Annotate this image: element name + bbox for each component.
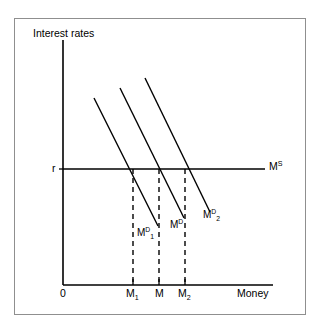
origin-label: 0 [60,288,66,299]
x-tick-m1-subscript: 1 [135,294,139,302]
money-supply-curve-label: MS [269,161,283,172]
money-demand-2-superscript: D [211,208,216,215]
money-demand-1-superscript: D [145,226,150,233]
x-axis-label: Money [237,288,269,299]
x-tick-m2-subscript: 2 [187,294,191,302]
money-demand-curve-2-label: MD2 [203,210,220,220]
money-supply-label-superscript: S [278,160,283,168]
y-axis-label: Interest rates [33,28,94,39]
money-demand-curve-1-label: MD1 [137,228,154,238]
money-market-diagram: Interest rates Money r 0 MS M1 M M2 MD1 … [0,0,323,333]
money-demand-curve-2 [145,78,210,212]
x-tick-m2-base: M [178,287,187,299]
money-demand-curve [120,88,184,218]
money-supply-label-base: M [269,160,278,172]
x-tick-label-m1: M1 [126,288,139,299]
x-tick-label-m: M [155,288,164,299]
money-demand-curve-1 [94,98,158,226]
x-tick-m-base: M [155,287,164,299]
money-demand-superscript: D [178,218,183,225]
interest-rate-tick-label: r [52,163,56,174]
money-demand-2-subscript: 2 [216,215,220,222]
money-demand-curve-label: MD [170,220,183,230]
money-demand-1-subscript: 1 [150,233,154,240]
x-tick-label-m2: M2 [178,288,191,299]
x-tick-m1-base: M [126,287,135,299]
